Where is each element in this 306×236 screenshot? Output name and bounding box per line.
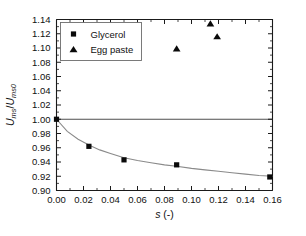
y-tick-label: 0.96: [32, 142, 51, 153]
data-point-egg-paste: [173, 45, 181, 51]
x-tick-label: 0.04: [101, 194, 120, 205]
legend-label-egg-paste: Egg paste: [91, 44, 134, 55]
legend-label-glycerol: Glycerol: [91, 29, 126, 40]
x-tick-label: 0.10: [182, 194, 201, 205]
x-tick-label: 0.16: [263, 194, 282, 205]
data-point-egg-paste: [207, 20, 215, 26]
y-tick-label: 0.98: [32, 128, 51, 139]
y-axis-label: Ums/Ums0: [4, 83, 18, 126]
y-tick-label: 0.90: [32, 185, 51, 196]
legend-marker-square: [71, 31, 76, 36]
scatter-plot: 0.000.020.040.060.080.100.120.140.160.90…: [0, 0, 306, 236]
y-axis-label-num-sub: ms: [9, 108, 18, 118]
x-tick-label: 0.08: [155, 194, 174, 205]
data-point-egg-paste: [213, 33, 221, 39]
y-tick-label: 1.06: [32, 71, 51, 82]
data-point-glycerol: [121, 157, 126, 162]
y-axis-label-den-sub: ms0: [9, 83, 18, 98]
x-axis-label: s (-): [155, 208, 174, 220]
x-tick-label: 0.06: [128, 194, 147, 205]
x-tick-label: 0.02: [74, 194, 93, 205]
y-tick-label: 1.14: [32, 14, 51, 25]
y-tick-label: 1.08: [32, 57, 51, 68]
data-point-glycerol: [267, 174, 272, 179]
y-tick-label: 1.02: [32, 99, 51, 110]
x-tick-label: 0.14: [236, 194, 255, 205]
x-tick-label: 0.12: [209, 194, 228, 205]
y-tick-label: 0.94: [32, 156, 51, 167]
y-tick-label: 1.00: [32, 114, 51, 125]
y-tick-label: 1.10: [32, 42, 51, 53]
data-point-glycerol: [86, 144, 91, 149]
y-tick-label: 1.04: [32, 85, 51, 96]
y-tick-label: 0.92: [32, 171, 51, 182]
data-point-glycerol: [174, 162, 179, 167]
data-point-glycerol: [54, 117, 59, 122]
x-axis-label-unit: (-): [160, 208, 173, 220]
chart-figure: 0.000.020.040.060.080.100.120.140.160.90…: [0, 0, 306, 236]
y-tick-label: 1.12: [32, 28, 51, 39]
